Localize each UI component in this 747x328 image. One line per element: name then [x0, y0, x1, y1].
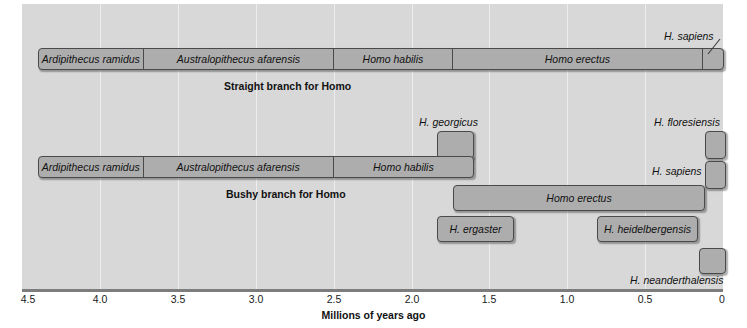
bar-h-heidelbergensis: H. heidelbergensis [597, 216, 698, 242]
bushy-branch-caption: Bushy branch for Homo [226, 188, 346, 200]
label-h-georgicus: H. georgicus [419, 116, 478, 128]
label-h-neanderthalensis: H. neanderthalensis [630, 274, 723, 286]
gridline-2.5 [334, 4, 335, 289]
x-axis-title: Millions of years ago [0, 309, 747, 321]
x-tick-1.0: 1.0 [560, 293, 575, 305]
gridline-1.0 [567, 4, 568, 289]
bar-homo-erectus-bushy: Homo erectus [453, 185, 705, 211]
leader-line-h-sapiens-straight [700, 38, 728, 56]
bar-h-floresiensis [705, 131, 726, 159]
segment-australopithecus-afarensis: Australopithecus afarensis [144, 49, 334, 69]
segment-homo-erectus: Homo erectus [453, 49, 703, 69]
gridline-4.0 [100, 4, 101, 289]
segment-homo-habilis: Homo habilis [334, 49, 453, 69]
bar-h-neanderthalensis [699, 248, 726, 274]
x-tick-3.5: 3.5 [171, 293, 186, 305]
x-tick-0.5: 0.5 [638, 293, 653, 305]
x-tick-4.5: 4.5 [21, 293, 36, 305]
segment-ardipithecus-ramidus: Ardipithecus ramidus [39, 49, 144, 69]
gridline-0.5 [645, 4, 646, 289]
x-tick-2.5: 2.5 [327, 293, 342, 305]
label-h-floresiensis: H. floresiensis [654, 116, 720, 128]
segment-ardipithecus-ramidus-bushy: Ardipithecus ramidus [39, 157, 144, 177]
segment-australopithecus-afarensis-bushy: Australopithecus afarensis [144, 157, 334, 177]
bar-h-georgicus [437, 131, 474, 159]
gridline-1.5 [489, 4, 490, 289]
x-tick-4.0: 4.0 [93, 293, 108, 305]
x-axis-line [22, 289, 723, 292]
bar-h-ergaster: H. ergaster [437, 216, 514, 242]
segment-homo-habilis-bushy: Homo habilis [334, 157, 473, 177]
gridline-3.5 [178, 4, 179, 289]
x-tick-2.0: 2.0 [405, 293, 420, 305]
straight-branch-lineage-bar: Ardipithecus ramidus Australopithecus af… [38, 48, 724, 70]
plot-panel [22, 4, 723, 289]
straight-branch-caption: Straight branch for Homo [224, 80, 351, 92]
figure-canvas: Ardipithecus ramidus Australopithecus af… [0, 0, 747, 328]
bar-h-sapiens-bushy [705, 161, 726, 189]
label-h-sapiens-bushy: H. sapiens [652, 165, 702, 177]
bushy-branch-lineage-bar: Ardipithecus ramidus Australopithecus af… [38, 156, 474, 178]
x-tick-0: 0 [719, 293, 725, 305]
x-tick-3.0: 3.0 [249, 293, 264, 305]
x-tick-1.5: 1.5 [482, 293, 497, 305]
gridline-3.0 [256, 4, 257, 289]
gridline-2.0 [412, 4, 413, 289]
